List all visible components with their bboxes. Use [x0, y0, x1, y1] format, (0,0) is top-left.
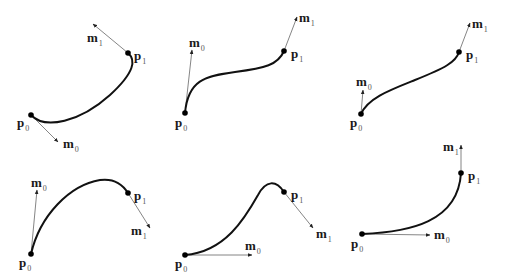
point-p1	[125, 190, 131, 196]
label-m0: m0	[434, 227, 450, 245]
panel-3: p0p1m0m1	[350, 16, 488, 133]
point-p1	[456, 49, 462, 55]
label-p1: p1	[466, 47, 478, 65]
panel-4: p0p1m0m1	[19, 175, 150, 273]
hermite-curve	[185, 51, 284, 113]
label-m1: m1	[443, 139, 459, 157]
panel-1: p0p1m0m1	[17, 24, 146, 154]
point-p1	[458, 170, 464, 176]
label-p0: p0	[19, 255, 31, 273]
label-m1: m1	[131, 223, 147, 241]
label-m0: m0	[31, 175, 47, 193]
label-p1: p1	[291, 46, 303, 64]
hermite-curve	[31, 53, 132, 122]
label-p0: p0	[175, 256, 187, 274]
label-p1: p1	[468, 168, 480, 186]
label-p1: p1	[134, 48, 146, 66]
panel-2: p0p1m0m1	[175, 10, 315, 133]
label-p0: p0	[175, 115, 187, 133]
point-p0	[182, 110, 188, 116]
point-p0	[28, 251, 34, 257]
label-m1: m1	[316, 226, 332, 244]
label-m1: m1	[87, 30, 103, 48]
label-m0: m0	[63, 136, 79, 154]
point-p1	[281, 48, 287, 54]
label-m0: m0	[245, 238, 261, 256]
hermite-curve	[361, 52, 459, 114]
label-p0: p0	[17, 115, 29, 133]
point-p0	[359, 231, 365, 237]
point-p0	[358, 111, 364, 117]
hermite-curve	[362, 173, 461, 234]
label-p1: p1	[134, 188, 146, 206]
point-p1	[125, 50, 131, 56]
label-p0: p0	[350, 115, 362, 133]
panel-6: p0p1m0m1	[351, 139, 480, 254]
hermite-curve	[185, 183, 284, 255]
hermite-curves-figure: p0p1m0m1p0p1m0m1p0p1m0m1p0p1m0m1p0p1m0m1…	[0, 0, 508, 280]
label-m0: m0	[189, 35, 205, 53]
point-p0	[182, 252, 188, 258]
point-p0	[28, 112, 34, 118]
label-p0: p0	[351, 236, 363, 254]
label-m1: m1	[299, 10, 315, 28]
label-m0: m0	[356, 74, 372, 92]
label-m1: m1	[472, 16, 488, 34]
panel-5: p0p1m0m1	[175, 183, 332, 274]
point-p1	[281, 189, 287, 195]
